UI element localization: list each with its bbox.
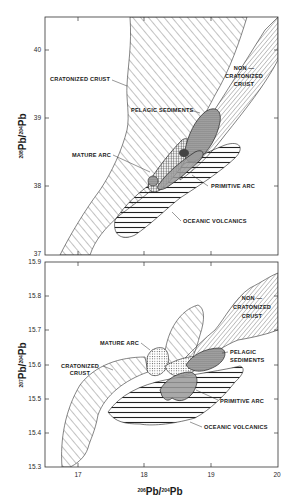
label-non3-bottom: CRUST [242,313,263,319]
bottom-y-tick-15.4: 15.4 [28,429,41,436]
label-non1-bottom: NON — [242,295,263,301]
top-y-tick-39: 39 [34,114,42,121]
mature-arc-core-top [148,176,158,186]
label-oceanic-volcanics-top: OCEANIC VOLCANICS [183,218,247,224]
bottom-chart: 15.9 15.8 15.7 15.6 15.5 15.4 15.3 17 18… [17,258,281,478]
x-tick-20: 20 [273,471,281,478]
bottom-y-tick-15.9: 15.9 [28,258,41,265]
bottom-y-tick-15.6: 15.6 [28,361,41,368]
label-cratonized2-bottom: CRUST [70,370,91,376]
label-pelagic1-bottom: PELAGIC [230,349,256,355]
x-tick-19: 19 [207,471,215,478]
label-pelagic2-bottom: SEDIMENTS [230,357,265,363]
label-mature-arc-top: MATURE ARC [72,152,111,158]
top-y-tick-40: 40 [34,46,42,53]
bottom-y-axis-title: 207Pb/204Pb [17,342,28,387]
label-oceanic-volcanics-bottom: OCEANIC VOLCANICS [204,424,268,430]
label-primitive-arc-bottom: PRIMITIVE ARC [220,398,264,404]
top-y-tick-37: 37 [34,250,42,257]
bottom-y-tick-15.5: 15.5 [28,395,41,402]
x-axis-title: 206Pb/204Pb [137,486,182,497]
bottom-y-tick-15.8: 15.8 [28,292,41,299]
bottom-y-tick-15.7: 15.7 [28,326,41,333]
top-chart: 40 39 38 37 208Pb/204Pb CRATONIZED CRUST… [17,17,278,257]
label-primitive-arc-top: PRIMITIVE ARC [211,183,255,189]
bottom-y-tick-15.3: 15.3 [28,463,41,470]
figure: 40 39 38 37 208Pb/204Pb CRATONIZED CRUST… [0,0,297,501]
bottom-plot-regions [62,273,278,467]
label-non2-top: CRATONIZED [225,73,263,79]
pelagic-core-top [179,149,189,157]
top-y-axis-title: 208Pb/204Pb [17,113,28,158]
label-mature-arc-bottom: MATURE ARC [100,340,139,346]
top-y-tick-38: 38 [34,182,42,189]
label-non2-bottom: CRATONIZED [233,304,271,310]
label-cratonized1-bottom: CRATONIZED [61,363,99,369]
x-tick-18: 18 [140,471,148,478]
label-non1-top: NON — [234,65,255,71]
region-mature-arc-bottom [147,348,169,376]
label-non3-top: CRUST [234,81,255,87]
label-cratonized-crust-top: CRATONIZED CRUST [50,76,111,82]
x-tick-17: 17 [74,471,82,478]
label-pelagic-sediments-top: PELAGIC SEDIMENTS [131,107,194,113]
